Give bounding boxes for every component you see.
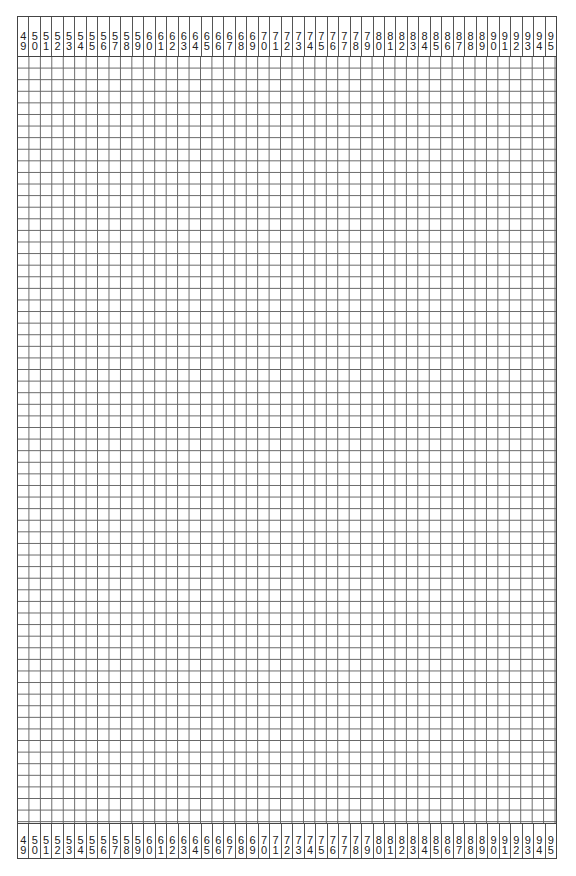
column-label-ones-digit: 7: [456, 41, 462, 51]
top-column-label: 87: [454, 17, 465, 56]
column-label-ones-digit: 0: [146, 41, 152, 51]
top-column-label: 76: [328, 17, 339, 56]
column-label-ones-digit: 2: [169, 41, 175, 51]
grid-body: [18, 57, 556, 823]
column-label-ones-digit: 1: [43, 845, 49, 855]
top-column-label: 50: [29, 17, 40, 56]
column-label-ones-digit: 4: [422, 41, 428, 51]
top-column-label: 73: [293, 17, 304, 56]
column-label-ones-digit: 8: [238, 845, 244, 855]
column-label-ones-digit: 6: [445, 845, 451, 855]
top-column-label: 49: [18, 17, 29, 56]
top-column-label: 94: [534, 17, 545, 56]
top-column-label: 89: [477, 17, 488, 56]
top-column-label: 83: [408, 17, 419, 56]
column-label-ones-digit: 5: [89, 845, 95, 855]
column-label-ones-digit: 5: [318, 845, 324, 855]
column-label-ones-digit: 9: [479, 41, 485, 51]
column-label-ones-digit: 8: [238, 41, 244, 51]
column-label-ones-digit: 6: [330, 41, 336, 51]
top-column-label: 62: [167, 17, 178, 56]
column-label-ones-digit: 2: [284, 41, 290, 51]
top-column-label: 51: [41, 17, 52, 56]
column-label-ones-digit: 2: [169, 845, 175, 855]
column-label-ones-digit: 7: [456, 845, 462, 855]
bottom-column-label: 74: [305, 824, 316, 858]
bottom-column-label: 92: [511, 824, 522, 858]
column-label-ones-digit: 8: [123, 845, 129, 855]
column-label-ones-digit: 9: [479, 845, 485, 855]
column-label-ones-digit: 9: [250, 845, 256, 855]
bottom-column-label: 58: [121, 824, 132, 858]
bottom-column-label: 84: [419, 824, 430, 858]
column-label-ones-digit: 5: [433, 41, 439, 51]
top-column-label: 85: [431, 17, 442, 56]
bottom-column-label: 52: [52, 824, 63, 858]
bottom-column-label: 66: [213, 824, 224, 858]
bottom-column-label: 68: [236, 824, 247, 858]
top-column-label: 75: [316, 17, 327, 56]
column-label-ones-digit: 4: [536, 41, 542, 51]
column-label-ones-digit: 1: [502, 845, 508, 855]
bottom-column-label: 73: [293, 824, 304, 858]
bottom-column-label: 79: [362, 824, 373, 858]
column-label-ones-digit: 9: [20, 845, 26, 855]
bottom-column-label: 72: [282, 824, 293, 858]
column-label-ones-digit: 9: [20, 41, 26, 51]
column-header-row-bottom: 4950515253545556575859606162636465666768…: [18, 823, 556, 858]
column-label-ones-digit: 8: [353, 41, 359, 51]
top-column-label: 82: [396, 17, 407, 56]
top-column-label: 90: [488, 17, 499, 56]
column-label-ones-digit: 3: [410, 845, 416, 855]
column-label-ones-digit: 5: [204, 845, 210, 855]
column-label-ones-digit: 1: [158, 41, 164, 51]
top-column-label: 65: [202, 17, 213, 56]
column-label-ones-digit: 6: [330, 845, 336, 855]
bottom-column-label: 91: [500, 824, 511, 858]
bottom-column-label: 88: [465, 824, 476, 858]
column-label-ones-digit: 3: [410, 41, 416, 51]
column-label-ones-digit: 0: [376, 845, 382, 855]
bottom-column-label: 69: [247, 824, 258, 858]
top-column-label: 58: [121, 17, 132, 56]
column-label-ones-digit: 3: [525, 41, 531, 51]
grid-sheet: 4950515253545556575859606162636465666768…: [17, 16, 557, 859]
bottom-column-label: 85: [431, 824, 442, 858]
top-column-label: 84: [419, 17, 430, 56]
bottom-column-label: 75: [316, 824, 327, 858]
top-column-label: 80: [374, 17, 385, 56]
top-column-label: 53: [64, 17, 75, 56]
bottom-column-label: 54: [75, 824, 86, 858]
column-label-ones-digit: 3: [525, 845, 531, 855]
bottom-column-label: 90: [488, 824, 499, 858]
bottom-column-label: 63: [179, 824, 190, 858]
top-column-label: 95: [546, 17, 556, 56]
top-column-label: 61: [156, 17, 167, 56]
top-column-label: 66: [213, 17, 224, 56]
top-column-label: 92: [511, 17, 522, 56]
bottom-column-label: 62: [167, 824, 178, 858]
top-column-label: 81: [385, 17, 396, 56]
column-label-ones-digit: 3: [66, 41, 72, 51]
column-label-ones-digit: 4: [307, 845, 313, 855]
column-label-ones-digit: 7: [112, 845, 118, 855]
column-label-ones-digit: 5: [89, 41, 95, 51]
bottom-column-label: 70: [259, 824, 270, 858]
top-column-label: 71: [270, 17, 281, 56]
column-label-ones-digit: 4: [192, 41, 198, 51]
top-column-label: 74: [305, 17, 316, 56]
top-column-label: 52: [52, 17, 63, 56]
bottom-column-label: 83: [408, 824, 419, 858]
column-header-row-top: 4950515253545556575859606162636465666768…: [18, 17, 556, 57]
column-label-ones-digit: 6: [215, 41, 221, 51]
column-label-ones-digit: 2: [399, 41, 405, 51]
column-label-ones-digit: 4: [192, 845, 198, 855]
column-label-ones-digit: 0: [32, 41, 38, 51]
column-label-ones-digit: 6: [445, 41, 451, 51]
column-label-ones-digit: 4: [78, 41, 84, 51]
bottom-column-label: 76: [328, 824, 339, 858]
bottom-column-label: 56: [98, 824, 109, 858]
column-label-ones-digit: 2: [513, 41, 519, 51]
column-label-ones-digit: 9: [135, 845, 141, 855]
bottom-column-label: 93: [523, 824, 534, 858]
